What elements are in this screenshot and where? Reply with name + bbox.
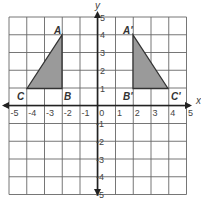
vertex-label-c: C <box>17 91 25 102</box>
y-tick-label: 1 <box>100 84 105 94</box>
y-tick-label: -3 <box>96 155 104 165</box>
x-tick-label: -3 <box>46 108 54 118</box>
x-tick-label: 0 <box>99 108 104 118</box>
x-tick-label: 1 <box>117 108 122 118</box>
x-tick-label: 2 <box>135 108 140 118</box>
y-tick-label: -4 <box>96 172 104 182</box>
vertex-label-a: A <box>53 25 61 36</box>
y-tick-label: -5 <box>96 190 104 198</box>
y-tick-label: -2 <box>96 137 104 147</box>
coordinate-plane: y x -5-4-3-2-1012345 12345-1-2-3-4-5 A B… <box>0 0 201 198</box>
x-tick-label: -1 <box>82 108 90 118</box>
vertex-label-c-prime: C' <box>171 91 181 102</box>
y-tick-label: -1 <box>96 119 104 129</box>
x-axis-arrow-left <box>2 102 9 109</box>
y-tick-label: 4 <box>100 30 105 40</box>
x-tick-label: -4 <box>28 108 36 118</box>
y-tick-label: 5 <box>100 13 105 23</box>
vertex-label-a-prime: A' <box>122 25 133 36</box>
y-axis-label: y <box>94 0 101 11</box>
triangle-a-prime-b-prime-c-prime <box>133 35 168 89</box>
vertex-label-b-prime: B' <box>123 91 133 102</box>
x-tick-label: -5 <box>11 108 19 118</box>
x-tick-label: 4 <box>170 108 175 118</box>
x-tick-labels: -5-4-3-2-1012345 <box>11 108 194 118</box>
x-axis-label: x <box>195 95 201 106</box>
x-tick-label: -2 <box>64 108 72 118</box>
x-tick-label: 3 <box>153 108 158 118</box>
vertex-label-b: B <box>64 91 71 102</box>
y-tick-label: 3 <box>100 48 105 58</box>
y-tick-label: 2 <box>100 66 105 76</box>
x-tick-label: 5 <box>188 108 193 118</box>
